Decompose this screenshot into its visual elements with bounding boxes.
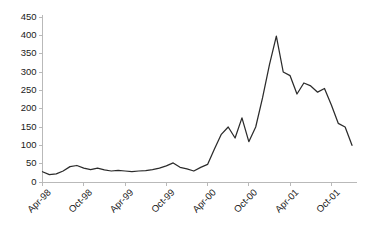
y-axis-tick-label: 350 <box>21 47 37 58</box>
x-axis-tick-label: Apr-98 <box>25 187 53 215</box>
chart-container: 050100150200250300350400450Apr-98Oct-98A… <box>0 0 365 227</box>
x-axis-tick-label: Oct-98 <box>66 187 94 215</box>
y-axis-tick-label: 450 <box>21 11 37 22</box>
line-chart: 050100150200250300350400450Apr-98Oct-98A… <box>0 0 365 227</box>
x-axis-tick-label: Oct-01 <box>314 187 342 215</box>
x-axis-tick-label: Apr-00 <box>190 187 218 215</box>
y-axis-tick-label: 0 <box>31 176 36 187</box>
y-axis-tick-label: 200 <box>21 102 37 113</box>
y-axis-tick-label: 250 <box>21 84 37 95</box>
y-axis-tick-label: 300 <box>21 66 37 77</box>
y-axis-tick-label: 50 <box>26 157 37 168</box>
y-axis-tick-label: 100 <box>21 139 37 150</box>
x-axis-tick-label: Oct-99 <box>149 187 177 215</box>
x-axis-tick-label: Apr-99 <box>108 187 136 215</box>
data-series-line <box>43 36 353 175</box>
x-axis-tick-label: Apr-01 <box>273 187 301 215</box>
y-axis-tick-label: 150 <box>21 121 37 132</box>
y-axis-tick-label: 400 <box>21 29 37 40</box>
x-axis-tick-label: Oct-00 <box>231 187 259 215</box>
